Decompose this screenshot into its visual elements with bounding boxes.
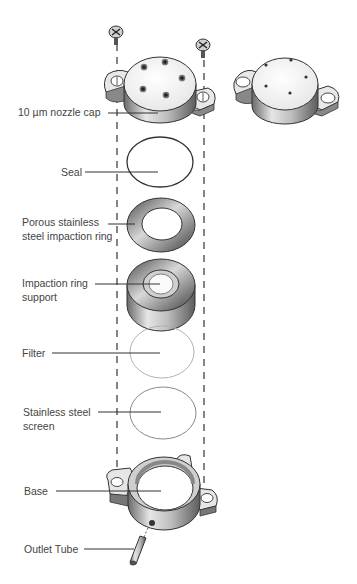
label-filter: Filter bbox=[22, 346, 45, 360]
impaction-ring-icon bbox=[127, 198, 195, 252]
base-icon bbox=[107, 455, 218, 530]
label-ring-support-line1: Impaction ring bbox=[22, 276, 88, 290]
label-impaction-ring-line2: steel impaction ring bbox=[22, 229, 112, 243]
assembled-cap-icon bbox=[234, 58, 339, 124]
label-ring-support-line2: support bbox=[22, 290, 88, 304]
ring-support-icon bbox=[127, 259, 195, 331]
label-ring-support: Impaction ring support bbox=[22, 276, 88, 304]
seal-icon bbox=[127, 137, 193, 187]
screen-icon bbox=[130, 387, 196, 439]
label-seal: Seal bbox=[61, 165, 82, 179]
outlet-tube-icon bbox=[130, 528, 148, 565]
label-nozzle-cap: 10 µm nozzle cap bbox=[18, 105, 101, 119]
label-screen-line2: screen bbox=[23, 419, 91, 433]
label-screen-line1: Stainless steel bbox=[23, 405, 91, 419]
label-screen: Stainless steel screen bbox=[23, 405, 91, 433]
label-base: Base bbox=[24, 484, 48, 498]
label-outlet-tube: Outlet Tube bbox=[24, 542, 78, 556]
label-impaction-ring: Porous stainless steel impaction ring bbox=[22, 215, 112, 243]
filter-icon bbox=[130, 326, 194, 378]
left-screw-icon bbox=[109, 26, 123, 45]
right-screw-icon bbox=[196, 39, 210, 58]
label-impaction-ring-line1: Porous stainless bbox=[22, 215, 112, 229]
